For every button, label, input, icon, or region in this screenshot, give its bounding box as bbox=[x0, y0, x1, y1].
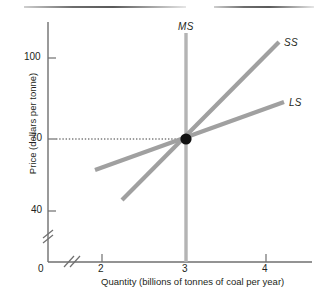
y-tick-label-70: 70 bbox=[31, 132, 42, 143]
economics-supply-chart: Price (dollars per tonne) Quantity (bill… bbox=[0, 0, 321, 296]
origin-label: 0 bbox=[38, 263, 44, 274]
ls-curve-label: LS bbox=[289, 97, 302, 108]
y-tick-label-40: 40 bbox=[31, 204, 42, 215]
y-axis-title: Price (dollars per tonne) bbox=[27, 59, 38, 189]
ms-curve-label: MS bbox=[178, 21, 194, 32]
y-tick-label-100: 100 bbox=[24, 51, 41, 62]
x-tick-label-3: 3 bbox=[182, 263, 188, 274]
x-tick-label-2: 2 bbox=[98, 263, 104, 274]
x-axis-title: Quantity (billions of tonnes of coal per… bbox=[101, 276, 284, 287]
equilibrium-point bbox=[180, 133, 191, 144]
ss-curve-label: SS bbox=[284, 37, 298, 48]
chart-canvas bbox=[0, 0, 321, 296]
ss-curve bbox=[122, 42, 279, 200]
x-tick-label-4: 4 bbox=[262, 263, 268, 274]
